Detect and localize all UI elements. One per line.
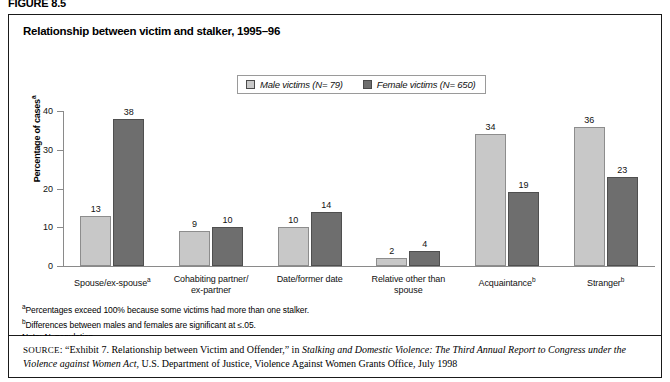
bar-male xyxy=(278,227,309,266)
x-axis-label-line: Cohabiting partner/ xyxy=(162,274,261,285)
x-axis-label: Date/former date xyxy=(260,274,359,285)
x-axis-label-superscript: b xyxy=(621,276,625,283)
figure-panel: Relationship between victim and stalker,… xyxy=(8,14,662,336)
x-axis-label-superscript: a xyxy=(147,276,151,283)
x-axis-label-line: ex-partner xyxy=(162,285,261,296)
source-part1: : “Exhibit 7. Relationship between Victi… xyxy=(60,344,302,355)
bar-male xyxy=(179,231,210,266)
source-kicker: SOURCE xyxy=(23,345,60,355)
footnote-b: bDifferences between males and females a… xyxy=(22,316,309,331)
bar-female xyxy=(508,192,539,266)
bar-female xyxy=(113,119,144,266)
bar-male xyxy=(376,258,407,266)
bar-value-label: 14 xyxy=(305,200,348,210)
x-axis-label-line: Relative other than xyxy=(359,274,458,285)
bar-value-label: 34 xyxy=(469,122,512,132)
bar-value-label: 19 xyxy=(502,180,545,190)
x-axis-label: Strangerb xyxy=(556,274,655,289)
footnote-b-text: Differences between males and females ar… xyxy=(26,320,256,330)
figure-label: FIGURE 8.5 xyxy=(8,0,66,9)
bar-male xyxy=(475,134,506,266)
footnote-a: aPercentages exceed 100% because some vi… xyxy=(22,301,309,316)
bar-value-label: 10 xyxy=(206,215,249,225)
bar-male xyxy=(574,127,605,267)
x-axis-label: Spouse/ex-spousea xyxy=(63,274,162,289)
source-citation: SOURCE: “Exhibit 7. Relationship between… xyxy=(23,343,651,370)
source-part2: , U.S. Department of Justice, Violence A… xyxy=(136,358,457,369)
bar-value-label: 38 xyxy=(107,107,150,117)
bar-value-label: 23 xyxy=(601,165,644,175)
bar-value-label: 13 xyxy=(74,204,117,214)
bar-value-label: 36 xyxy=(568,115,611,125)
source-panel: SOURCE: “Exhibit 7. Relationship between… xyxy=(8,336,662,378)
x-axis-label: Acquaintanceb xyxy=(458,274,557,289)
bar-female xyxy=(212,227,243,266)
bar-female xyxy=(607,177,638,266)
footnote-a-text: Percentages exceed 100% because some vic… xyxy=(26,305,309,315)
x-axis-label-line: Strangerb xyxy=(556,274,655,289)
bar-female xyxy=(311,212,342,266)
bar-chart: Percentage of casesa 010203040 133891010… xyxy=(9,15,663,337)
bar-male xyxy=(80,216,111,266)
x-axis-label-superscript: b xyxy=(532,276,536,283)
x-axis-label-line: spouse xyxy=(359,285,458,296)
bar-value-label: 10 xyxy=(272,215,315,225)
x-axis-label-line: Spouse/ex-spousea xyxy=(63,274,162,289)
x-axis-label: Relative other thanspouse xyxy=(359,274,458,296)
bar-value-label: 4 xyxy=(403,239,446,249)
x-axis-label-line: Date/former date xyxy=(260,274,359,285)
bar-female xyxy=(409,251,440,267)
x-axis-label: Cohabiting partner/ex-partner xyxy=(162,274,261,296)
x-axis-label-line: Acquaintanceb xyxy=(458,274,557,289)
